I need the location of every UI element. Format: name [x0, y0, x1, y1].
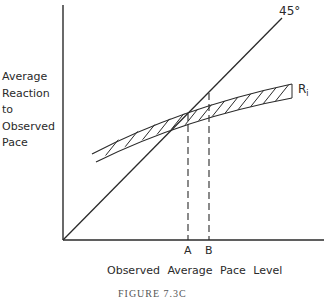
y-axis-label-line: Average	[2, 69, 55, 86]
figure-caption: FIGURE 7.3C	[118, 288, 187, 297]
45-degree-label: 45°	[279, 4, 300, 18]
curve-label: Ri	[298, 82, 309, 98]
reaction-band-upper-curve	[92, 84, 292, 154]
y-axis-label-line: Observed	[2, 119, 55, 136]
y-axis-label-line: to	[2, 102, 55, 119]
tick-label-b: B	[205, 244, 213, 257]
45-degree-line	[63, 18, 282, 240]
y-axis-label-line: Reaction	[2, 86, 55, 103]
y-axis-label: Average Reaction to Observed Pace	[2, 69, 55, 152]
y-axis-label-line: Pace	[2, 135, 55, 152]
x-axis-label: Observed Average Pace Level	[107, 264, 282, 277]
curve-label-subscript: i	[306, 89, 308, 98]
reaction-band-hatching	[90, 58, 310, 175]
tick-label-a: A	[184, 244, 192, 257]
